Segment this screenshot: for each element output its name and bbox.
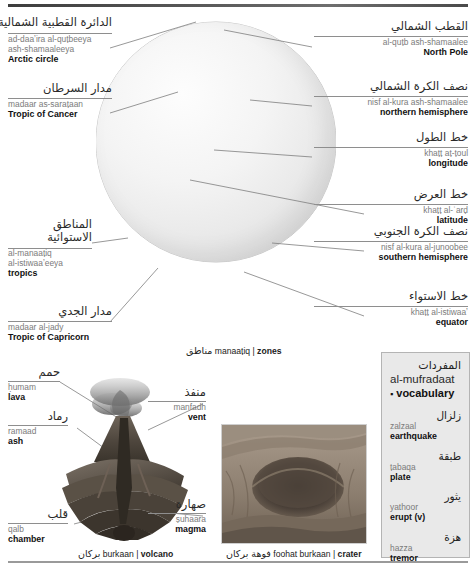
caption-volcano: بركان burkaan | volcano — [78, 548, 173, 559]
label-arctic-circle-translit-1: ad-daaʼira al-quṭbeeya — [8, 34, 112, 44]
label-chamber-arabic: قلب — [8, 508, 68, 521]
label-chamber-translit: qalb — [8, 524, 68, 534]
vocabulary-term-tremor-arabic: هزة — [390, 531, 461, 543]
vocabulary-term-plate-english: plate — [390, 472, 461, 483]
caption-volcano-english: volcano — [141, 549, 173, 559]
label-equator-arabic: خط الاستواء — [314, 290, 468, 303]
label-ash-english: ash — [8, 436, 68, 447]
label-southern-hemisphere-translit: nisf al-kura al-junoobee — [314, 242, 468, 252]
label-equator-translit: khaṭṭ al-istiwaaʼ — [314, 307, 468, 317]
vocabulary-term-erupt-translit: yathoor — [390, 502, 461, 512]
label-north-pole-english: North Pole — [314, 47, 468, 58]
label-tropic-of-cancer-arabic: مدار السرطان — [8, 82, 112, 95]
vocabulary-title-english-row: ▪ vocabulary — [390, 386, 461, 401]
label-equator: خط الاستواء khaṭṭ al-istiwaaʼ equator — [314, 290, 468, 328]
vocabulary-term-erupt-english: erupt (v) — [390, 512, 461, 523]
label-tropic-of-capricorn-translit: madaar al-jady — [8, 322, 112, 332]
label-northern-hemisphere-translit: nisf al-kura ash-shamaalee — [314, 97, 468, 107]
label-latitude: خط العرض khaṭṭ al-ʿarḍ latitude — [314, 188, 468, 226]
label-vent-english: vent — [148, 412, 206, 423]
vocabulary-term-tremor-translit: hazza — [390, 543, 461, 553]
label-longitude: خط الطول khaṭṭ aṭ-ṭoul longitude — [314, 131, 468, 169]
label-tropic-of-capricorn-arabic: مدار الجدي — [8, 305, 112, 318]
label-southern-hemisphere: نصف الكرة الجنوبي nisf al-kura al-junoob… — [314, 225, 468, 263]
vocabulary-term-earthquake: زلزال zalzaal earthquake — [390, 409, 461, 442]
caption-zones-arabic: مناطق — [186, 345, 212, 356]
vocabulary-title-translit: al-mufradaat — [390, 372, 461, 386]
vocabulary-term-tremor: هزة hazza tremor — [390, 531, 461, 564]
label-vent: منفذ manfadh vent — [148, 386, 206, 423]
vocabulary-term-earthquake-translit: zalzaal — [390, 421, 461, 431]
caption-volcano-arabic: بركان — [78, 548, 100, 559]
label-tropic-of-cancer-translit: madaar as-saraṭaan — [8, 99, 112, 109]
crater-photograph — [221, 424, 367, 544]
label-lava: حمم ḥumam lava — [8, 366, 60, 403]
caption-volcano-separator: | — [136, 549, 138, 559]
caption-zones-separator: | — [252, 346, 254, 356]
vocabulary-term-plate: طبقة ṭabaqa plate — [390, 450, 461, 483]
label-equator-english: equator — [314, 317, 468, 328]
label-latitude-arabic: خط العرض — [314, 188, 468, 201]
label-lava-arabic: حمم — [8, 366, 60, 379]
label-southern-hemisphere-arabic: نصف الكرة الجنوبي — [314, 225, 468, 238]
vocabulary-box: المفردات al-mufradaat ▪ vocabulary زلزال… — [381, 352, 470, 558]
label-tropics: المناطق الاستوائية al-manaaṭiq al-istiwa… — [8, 218, 92, 279]
bottom-divider — [8, 561, 468, 563]
label-arctic-circle-arabic: الدائرة القطبية الشمالية — [8, 16, 112, 29]
label-magma: صهارة ṣuhaara magma — [148, 498, 206, 535]
label-northern-hemisphere-arabic: نصف الكرة الشمالي — [314, 80, 468, 93]
label-chamber-english: chamber — [8, 534, 68, 545]
caption-crater-separator: | — [333, 549, 335, 559]
label-longitude-english: longitude — [314, 158, 468, 169]
vocabulary-term-earthquake-arabic: زلزال — [390, 409, 461, 421]
label-tropics-english: tropics — [8, 268, 92, 279]
label-tropics-translit-1: al-manaaṭiq — [8, 248, 92, 258]
label-chamber: قلب qalb chamber — [8, 508, 68, 545]
label-northern-hemisphere-english: northern hemisphere — [314, 107, 468, 118]
caption-zones-english: zones — [257, 346, 281, 356]
label-vent-arabic: منفذ — [148, 386, 206, 399]
caption-zones: مناطق manaaṭiq | zones — [186, 345, 281, 356]
label-tropics-arabic-2: الاستوائية — [8, 231, 92, 244]
label-arctic-circle-translit-2: ash-shamaaleeya — [8, 44, 112, 54]
label-longitude-arabic: خط الطول — [314, 131, 468, 144]
label-ash-translit: ramaad — [8, 426, 68, 436]
label-vent-translit: manfadh — [148, 402, 206, 412]
label-north-pole-translit: al-quṭb ash-shamaalee — [314, 37, 468, 47]
label-lava-translit: ḥumam — [8, 382, 60, 392]
caption-crater-arabic: فوهة بركان — [226, 548, 271, 559]
label-magma-translit: ṣuhaara — [148, 514, 206, 524]
caption-zones-translit: manaaṭiq — [215, 346, 250, 356]
label-tropic-of-cancer-english: Tropic of Cancer — [8, 109, 112, 120]
label-ash-arabic: رماد — [8, 410, 68, 423]
label-tropic-of-capricorn-english: Tropic of Capricorn — [8, 332, 112, 343]
label-southern-hemisphere-english: southern hemisphere — [314, 252, 468, 263]
label-arctic-circle-english: Arctic circle — [8, 54, 112, 65]
label-lava-english: lava — [8, 392, 60, 403]
label-northern-hemisphere: نصف الكرة الشمالي nisf al-kura ash-shama… — [314, 80, 468, 118]
vocabulary-term-erupt-arabic: يثور — [390, 490, 461, 502]
label-latitude-translit: khaṭṭ al-ʿarḍ — [314, 205, 468, 215]
label-north-pole-arabic: القطب الشمالي — [314, 20, 468, 33]
vocabulary-term-plate-arabic: طبقة — [390, 450, 461, 462]
vocabulary-title-arabic: المفردات — [390, 359, 461, 372]
label-ash: رماد ramaad ash — [8, 410, 68, 447]
caption-crater-translit: foohat burkaan — [273, 549, 330, 559]
vocabulary-title-english: vocabulary — [396, 387, 454, 399]
caption-crater-english: crater — [338, 549, 362, 559]
label-magma-english: magma — [148, 524, 206, 535]
label-arctic-circle: الدائرة القطبية الشمالية ad-daaʼira al-q… — [8, 16, 112, 65]
label-tropics-translit-2: al-istiwaaʼeeya — [8, 258, 92, 268]
bullet-icon: ▪ — [390, 389, 393, 399]
vocabulary-term-erupt: يثور yathoor erupt (v) — [390, 490, 461, 523]
vocabulary-term-plate-translit: ṭabaqa — [390, 462, 461, 472]
caption-crater: فوهة بركان foohat burkaan | crater — [226, 548, 362, 559]
label-longitude-translit: khaṭṭ aṭ-ṭoul — [314, 148, 468, 158]
label-tropic-of-capricorn: مدار الجدي madaar al-jady Tropic of Capr… — [8, 305, 112, 343]
caption-volcano-translit: burkaan — [103, 549, 134, 559]
vocabulary-term-earthquake-english: earthquake — [390, 431, 461, 442]
label-north-pole: القطب الشمالي al-quṭb ash-shamaalee Nort… — [314, 20, 468, 58]
dictionary-page: الدائرة القطبية الشمالية ad-daaʼira al-q… — [0, 0, 476, 571]
label-tropic-of-cancer: مدار السرطان madaar as-saraṭaan Tropic o… — [8, 82, 112, 120]
label-magma-arabic: صهارة — [148, 498, 206, 511]
